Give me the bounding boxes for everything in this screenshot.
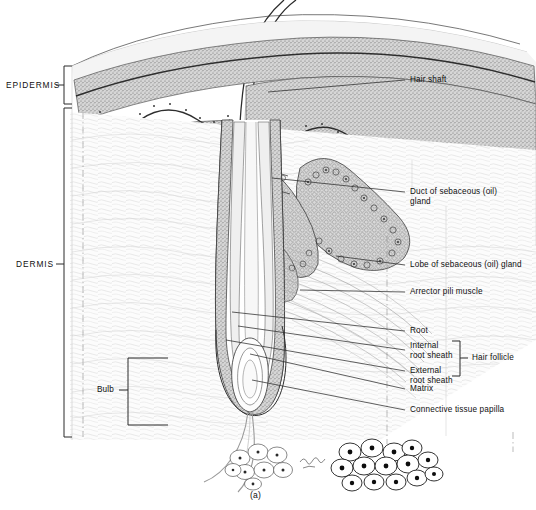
hair-shaft-label: Hair shaft: [410, 75, 447, 85]
dermis-bracket: [56, 108, 72, 437]
root-label: Root: [410, 326, 428, 336]
matrix-label: Matrix: [410, 384, 433, 394]
adipose-cells-right: [331, 439, 443, 491]
sebaceous-duct-label-line1: Duct of sebaceous (oil): [410, 187, 497, 197]
arrector-pili-label: Arrector pili muscle: [410, 287, 483, 297]
external-root-sheath-label-line1: External: [410, 366, 441, 376]
adipose-cells-left: [225, 444, 293, 490]
sebaceous-lobe-label: Lobe of sebaceous (oil) gland: [410, 260, 522, 270]
epidermis-label: EPIDERMIS: [6, 81, 60, 91]
dermis-label: DERMIS: [16, 260, 54, 270]
bulb-label: Bulb: [97, 385, 114, 395]
sebaceous-duct-label-line2: gland: [410, 197, 431, 207]
artist-signature: [300, 458, 325, 468]
hair-follicle-diagram: [0, 0, 536, 510]
figure-canvas: EPIDERMIS DERMIS Bulb Hair shaft Duct of…: [0, 0, 536, 510]
internal-root-sheath-label-line2: root sheath: [410, 351, 453, 361]
figure-caption: (a): [250, 491, 261, 501]
internal-root-sheath-label-line1: Internal: [410, 341, 439, 351]
papilla-label: Connective tissue papilla: [410, 405, 504, 415]
hair-follicle-label: Hair follicle: [472, 353, 514, 363]
